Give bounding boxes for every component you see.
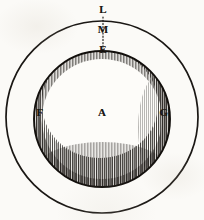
label-f: F [33, 107, 47, 118]
label-e: E [96, 44, 110, 55]
label-g: G [157, 107, 171, 118]
label-m: M [96, 24, 110, 35]
label-a: A [95, 107, 109, 118]
figure-container: L M E A F G [0, 0, 204, 220]
label-l: L [96, 4, 110, 15]
crescent-shading-right [138, 76, 178, 180]
